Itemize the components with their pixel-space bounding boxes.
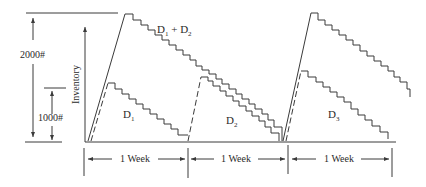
d3-rise-line bbox=[286, 71, 301, 141]
upper-dimension-label: 2000# bbox=[20, 49, 45, 60]
week-2-label: 1 Week bbox=[221, 153, 251, 164]
d3-label: D3 bbox=[328, 108, 340, 123]
week-3-label: 1 Week bbox=[324, 153, 354, 164]
axes bbox=[85, 27, 396, 142]
y-axis-label: Inventory bbox=[70, 65, 81, 104]
d2-rise-line bbox=[188, 77, 201, 141]
d2-demand-curve bbox=[201, 77, 279, 141]
d2-label: D2 bbox=[226, 114, 238, 129]
combined-rise-line-cycle-3 bbox=[283, 13, 311, 141]
inventory-diagram: 2000# 1000# Inventory D1 + D2 D1 D2 D3 bbox=[0, 0, 426, 187]
week-1-label: 1 Week bbox=[120, 153, 150, 164]
d1-rise-line bbox=[91, 83, 108, 141]
lower-dimension-label: 1000# bbox=[38, 112, 63, 123]
d1-demand-curve bbox=[108, 83, 188, 135]
d3-demand-curve bbox=[301, 71, 388, 139]
d1-label: D1 bbox=[123, 108, 135, 123]
combined-demand-curve-cycle-3 bbox=[311, 13, 410, 97]
